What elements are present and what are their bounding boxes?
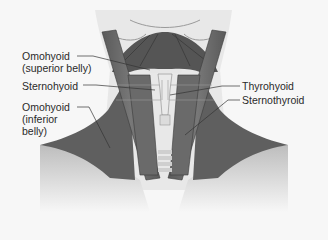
label-sternothyroid: Sternothyroid xyxy=(242,94,304,106)
label-text: Omohyoid xyxy=(22,101,70,113)
larynx-trachea xyxy=(158,74,172,172)
label-text: belly) xyxy=(22,125,70,137)
label-text: Thyrohyoid xyxy=(242,80,294,92)
label-text: (superior belly) xyxy=(22,62,91,74)
label-text: (inferior xyxy=(22,113,70,125)
label-text: Omohyoid xyxy=(22,50,91,62)
hyoid-bone xyxy=(148,69,182,73)
label-thyrohyoid: Thyrohyoid xyxy=(242,80,294,92)
label-text: Sternothyroid xyxy=(242,94,304,106)
label-omohyoid-superior-belly: Omohyoid (superior belly) xyxy=(22,50,91,74)
label-omohyoid-inferior-belly: Omohyoid (inferior belly) xyxy=(22,101,70,137)
label-sternohyoid: Sternohyoid xyxy=(22,80,78,92)
label-text: Sternohyoid xyxy=(22,80,78,92)
